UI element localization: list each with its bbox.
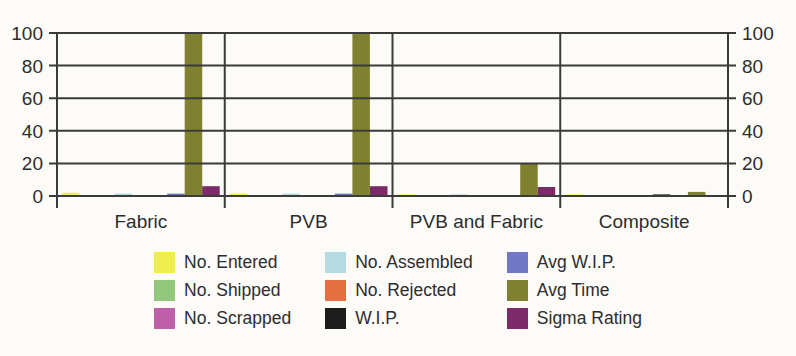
y-axis-right-tick-label-100: 100 xyxy=(742,23,774,44)
legend-swatch-no-assembled xyxy=(325,252,346,273)
legend-item-no-entered: No. Entered xyxy=(154,252,291,273)
legend-item-no-rejected: No. Rejected xyxy=(325,280,473,301)
y-axis-left-tick-label-0: 0 xyxy=(32,186,43,207)
bar-sigma-rating-pvb-and-fabric xyxy=(538,187,556,196)
legend-label-no-entered: No. Entered xyxy=(184,252,277,273)
x-axis-category-label-pvb-and-fabric: PVB and Fabric xyxy=(410,211,543,232)
y-axis-left-tick-label-80: 80 xyxy=(22,56,43,77)
y-axis-right-tick-label-60: 60 xyxy=(742,88,763,109)
legend-swatch-sigma-rating xyxy=(507,308,528,329)
legend-label-no-rejected: No. Rejected xyxy=(355,280,456,301)
y-axis-left-tick-label-100: 100 xyxy=(11,23,43,44)
y-axis-left-tick-label-40: 40 xyxy=(22,121,43,142)
legend-swatch-avg-time xyxy=(507,280,528,301)
bar-chart: 002020404060608080100100FabricPVBPVB and… xyxy=(0,0,796,244)
legend-item-no-shipped: No. Shipped xyxy=(154,280,291,301)
x-axis-category-label-pvb: PVB xyxy=(290,211,328,232)
y-axis-right-tick-label-80: 80 xyxy=(742,56,763,77)
y-axis-right-tick-label-20: 20 xyxy=(742,153,763,174)
legend-swatch-no-rejected xyxy=(325,280,346,301)
y-axis-right-tick-label-40: 40 xyxy=(742,121,763,142)
y-axis-left-tick-label-60: 60 xyxy=(22,88,43,109)
x-axis-category-label-composite: Composite xyxy=(599,211,690,232)
legend-swatch-no-entered xyxy=(154,252,175,273)
legend-swatch-avg-w-i-p xyxy=(507,252,528,273)
legend-label-avg-time: Avg Time xyxy=(537,280,610,301)
legend-item-no-assembled: No. Assembled xyxy=(325,252,473,273)
legend-label-no-assembled: No. Assembled xyxy=(355,252,473,273)
bar-avg-time-pvb xyxy=(352,33,370,196)
bar-chart-figure: 002020404060608080100100FabricPVBPVB and… xyxy=(0,0,796,356)
bar-sigma-rating-pvb xyxy=(370,186,388,196)
bar-avg-time-pvb-and-fabric xyxy=(520,163,538,196)
legend-label-avg-w-i-p: Avg W.I.P. xyxy=(537,252,616,273)
bar-sigma-rating-fabric xyxy=(202,186,220,196)
bar-avg-time-fabric xyxy=(185,33,203,196)
legend-label-no-scrapped: No. Scrapped xyxy=(184,308,291,329)
legend-swatch-w-i-p xyxy=(325,308,346,329)
legend-label-no-shipped: No. Shipped xyxy=(184,280,280,301)
legend-swatch-no-shipped xyxy=(154,280,175,301)
y-axis-left-tick-label-20: 20 xyxy=(22,153,43,174)
x-axis-category-label-fabric: Fabric xyxy=(114,211,167,232)
y-axis-right-tick-label-0: 0 xyxy=(742,186,753,207)
legend-label-sigma-rating: Sigma Rating xyxy=(537,308,642,329)
legend-label-w-i-p: W.I.P. xyxy=(355,308,399,329)
legend-item-w-i-p: W.I.P. xyxy=(325,308,473,329)
legend-item-sigma-rating: Sigma Rating xyxy=(507,308,642,329)
legend-item-avg-w-i-p: Avg W.I.P. xyxy=(507,252,642,273)
chart-legend: No. EnteredNo. AssembledAvg W.I.P.No. Sh… xyxy=(154,252,642,329)
legend-swatch-no-scrapped xyxy=(154,308,175,329)
legend-item-avg-time: Avg Time xyxy=(507,280,642,301)
legend-item-no-scrapped: No. Scrapped xyxy=(154,308,291,329)
